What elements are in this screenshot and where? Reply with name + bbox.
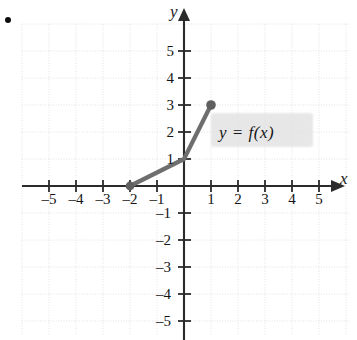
y-tick-label: 3 xyxy=(152,98,174,113)
graph-figure: y = f(x) x y –5 –4 –3 –2 –1 1 2 3 4 5 5 … xyxy=(0,0,357,340)
y-axis-arrowhead xyxy=(178,8,190,21)
y-tick-label: –4 xyxy=(149,287,171,302)
coordinate-plane xyxy=(0,0,357,340)
grid-lines xyxy=(22,24,350,336)
x-axis-label: x xyxy=(340,170,348,187)
x-tick-label: –5 xyxy=(38,192,60,207)
x-tick-label: 3 xyxy=(254,192,276,207)
y-tick-label: 1 xyxy=(152,152,174,167)
y-tick-label: –5 xyxy=(149,314,171,329)
x-tick-label: 4 xyxy=(281,192,303,207)
x-tick-label: –4 xyxy=(65,192,87,207)
x-tick-label: 5 xyxy=(308,192,330,207)
function-curve xyxy=(130,105,211,186)
x-tick-label: 1 xyxy=(200,192,222,207)
y-tick-label: 4 xyxy=(152,71,174,86)
x-tick-label: –3 xyxy=(92,192,114,207)
y-tick-label: –2 xyxy=(149,233,171,248)
y-tick-label: –1 xyxy=(149,206,171,221)
y-tick-label: 5 xyxy=(152,44,174,59)
function-label: y = f(x) xyxy=(219,124,274,141)
endpoint-right-closed xyxy=(206,100,216,110)
y-axis-label: y xyxy=(170,3,178,20)
x-tick-label: –2 xyxy=(119,192,141,207)
endpoint-left-closed xyxy=(126,182,135,191)
axes xyxy=(22,20,332,340)
x-tick-label: 2 xyxy=(227,192,249,207)
y-tick-label: 2 xyxy=(152,125,174,140)
y-tick-label: –3 xyxy=(149,260,171,275)
